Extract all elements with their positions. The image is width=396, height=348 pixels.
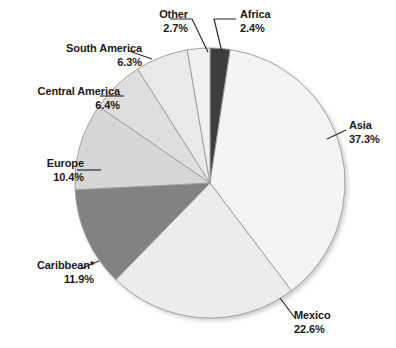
slice-label-other-value: 2.7%: [136, 22, 188, 36]
slice-label-asia-value: 37.3%: [349, 133, 395, 147]
slice-label-other: Other 2.7%: [136, 8, 188, 35]
leader-line-africa: [214, 19, 236, 52]
slice-label-mexico-value: 22.6%: [294, 323, 354, 337]
slice-label-central-america-value: 6.4%: [2, 99, 120, 113]
slice-label-caribbean-name: Caribbean*: [18, 259, 94, 273]
slice-label-south-america-name: South America: [36, 42, 142, 56]
slice-label-south-america-value: 6.3%: [36, 56, 142, 70]
slice-label-mexico-name: Mexico: [294, 309, 354, 323]
slice-label-africa: Africa 2.4%: [240, 8, 298, 35]
slice-label-central-america: Central America 6.4%: [2, 85, 120, 112]
leader-line-mexico: [280, 298, 295, 318]
slice-label-asia: Asia 37.3%: [349, 119, 395, 146]
slice-label-central-america-name: Central America: [2, 85, 120, 99]
slice-label-other-name: Other: [136, 8, 188, 22]
slice-label-caribbean: Caribbean* 11.9%: [18, 259, 94, 286]
slice-label-europe: Europe 10.4%: [20, 157, 84, 184]
slice-label-south-america: South America 6.3%: [36, 42, 142, 69]
slice-label-europe-name: Europe: [20, 157, 84, 171]
slice-label-mexico: Mexico 22.6%: [294, 309, 354, 336]
pie-chart-figure: Other 2.7% Africa 2.4% South America 6.3…: [0, 0, 396, 348]
slice-label-africa-name: Africa: [240, 8, 298, 22]
slice-label-europe-value: 10.4%: [20, 171, 84, 185]
slice-label-asia-name: Asia: [349, 119, 395, 133]
slice-label-africa-value: 2.4%: [240, 22, 298, 36]
slice-label-caribbean-value: 11.9%: [18, 273, 94, 287]
